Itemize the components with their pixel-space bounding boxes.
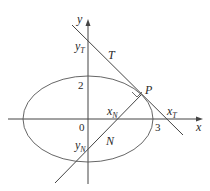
tangent-y-intercept-label: yT xyxy=(74,39,85,55)
normal-y-intercept-label: yN xyxy=(74,138,86,154)
ellipse-diagram: y x 0 3 2 T N P yT xT xN yN xyxy=(0,0,210,191)
y-axis-arrow-icon xyxy=(86,19,91,26)
x-axis-label: x xyxy=(195,120,202,134)
y-intercept-label: 2 xyxy=(78,79,84,91)
y-axis-label: y xyxy=(76,12,83,26)
point-p-label: P xyxy=(144,83,153,97)
tangent-label: T xyxy=(108,48,116,62)
diagram-canvas: y x 0 3 2 T N P yT xT xN yN xyxy=(0,0,210,191)
normal-x-intercept-label: xN xyxy=(106,104,118,120)
normal-line xyxy=(55,95,141,183)
tangent-x-intercept-label: xT xyxy=(166,104,177,120)
origin-label: 0 xyxy=(79,121,85,133)
normal-label: N xyxy=(105,134,115,148)
x-intercept-label: 3 xyxy=(155,121,161,133)
